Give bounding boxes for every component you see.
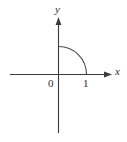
quarter-circle-arc: [59, 47, 87, 75]
x-axis-arrow-icon: [104, 72, 112, 78]
origin-tick-label: 0: [48, 78, 54, 89]
x-unit-tick-label: 1: [83, 78, 89, 89]
y-axis-arrow-icon: [56, 17, 62, 25]
x-axis-label: x: [115, 66, 120, 77]
coordinate-plane-figure: y x 0 1: [0, 0, 127, 142]
axes-and-curve-canvas: [0, 0, 127, 142]
y-axis-label: y: [55, 4, 60, 15]
